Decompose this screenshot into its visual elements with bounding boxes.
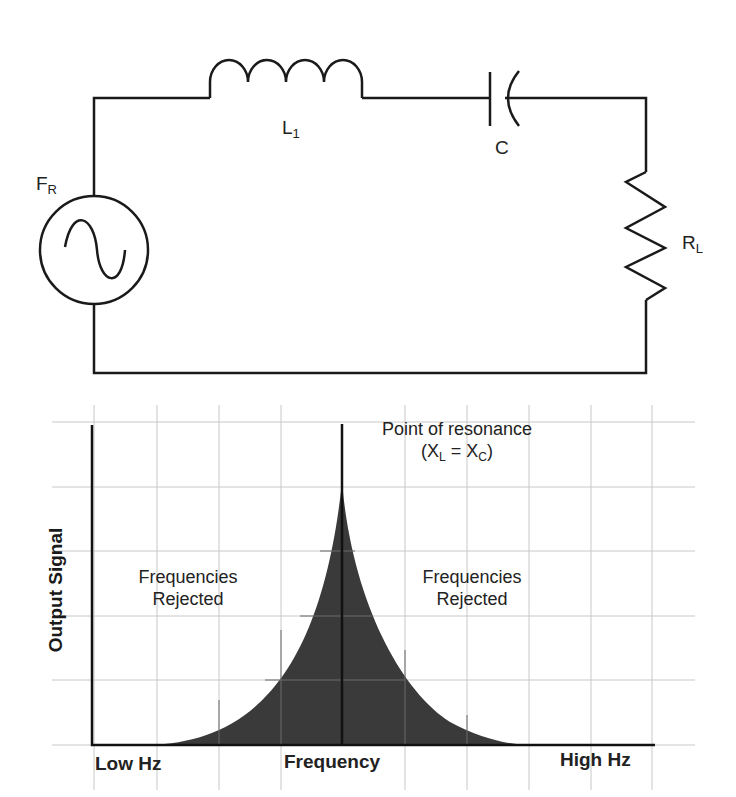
x-axis-high-label: High Hz	[560, 750, 631, 769]
diagram-canvas	[0, 0, 736, 797]
left-rejected-line2: Rejected	[118, 588, 258, 610]
ac-voltage-source-icon	[40, 196, 148, 304]
eq-mid: = X	[446, 441, 479, 461]
inductor-label: L1	[282, 118, 300, 140]
source-label-main: F	[36, 173, 48, 194]
capacitor-label-main: C	[495, 137, 509, 158]
eq-sub-l: L	[439, 450, 446, 464]
wire-left-top	[94, 98, 210, 196]
capacitor-label: C	[495, 138, 509, 157]
right-rejected-annotation: Frequencies Rejected	[402, 566, 542, 610]
x-axis-title: Frequency	[284, 752, 380, 771]
inductor-coil-icon	[210, 60, 362, 98]
eq-close: )	[487, 441, 493, 461]
inductor-label-main: L	[282, 117, 293, 138]
resonance-equation: (XL = XC)	[362, 440, 552, 468]
resonance-annotation: Point of resonance (XL = XC)	[362, 418, 552, 468]
inductor-label-sub: 1	[293, 126, 300, 141]
eq-open: (X	[421, 441, 439, 461]
wire-right-bottom	[94, 300, 646, 373]
circuit-schematic	[40, 60, 665, 373]
wire-right-top	[505, 98, 646, 172]
right-rejected-line1: Frequencies	[402, 566, 542, 588]
resistor-label: RL	[682, 233, 703, 255]
resistor-label-sub: L	[696, 241, 703, 256]
source-label-sub: R	[48, 182, 57, 197]
resonance-curve-area	[150, 482, 528, 745]
left-rejected-line1: Frequencies	[118, 566, 258, 588]
x-axis-low-label: Low Hz	[95, 754, 162, 773]
sine-wave-icon	[65, 220, 125, 278]
resistor-label-main: R	[682, 232, 696, 253]
resonance-title: Point of resonance	[362, 418, 552, 440]
right-rejected-line2: Rejected	[402, 588, 542, 610]
y-axis-label: Output Signal	[45, 528, 67, 653]
source-label: FR	[36, 174, 57, 196]
left-rejected-annotation: Frequencies Rejected	[118, 566, 258, 610]
resistor-zigzag-icon	[626, 172, 665, 300]
eq-sub-c: C	[478, 450, 487, 464]
